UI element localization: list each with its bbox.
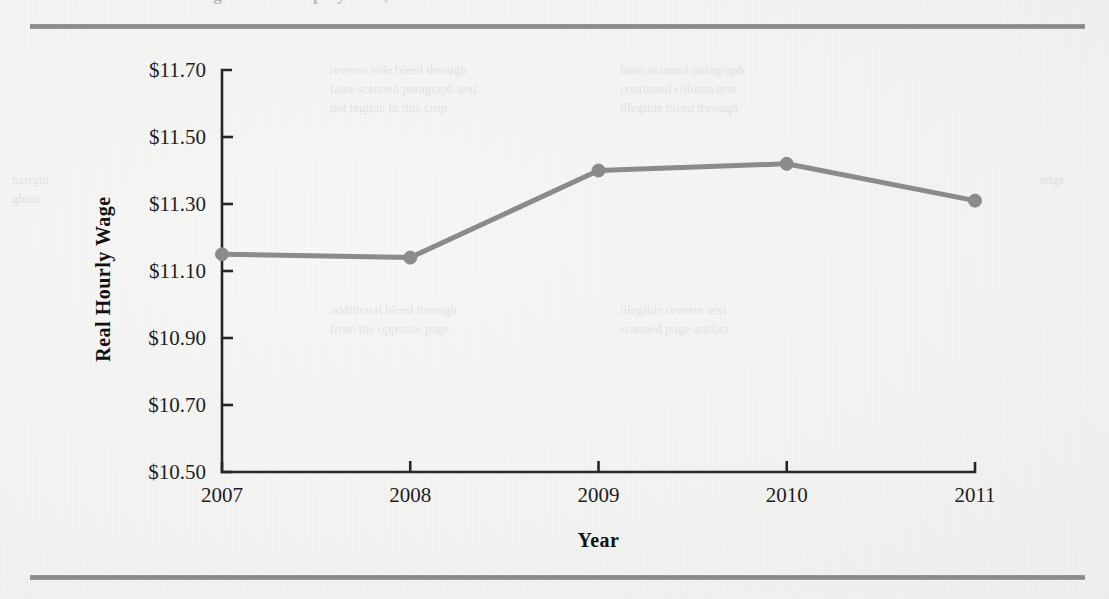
data-point-markers xyxy=(216,157,982,264)
x-tick-label: 2011 xyxy=(954,483,995,507)
x-tick-label: 2009 xyxy=(578,483,620,507)
y-tick-label: $11.50 xyxy=(149,125,206,149)
y-tick-label: $11.70 xyxy=(149,58,206,82)
horizontal-rule-top xyxy=(30,24,1085,29)
y-tick-label: $10.70 xyxy=(148,393,206,417)
page-heading: Minimum Wage and Unemployment, 2007-2011 xyxy=(108,0,470,5)
line-chart-figure: $11.70$11.50$11.30$11.10$10.90$10.70$10.… xyxy=(30,30,1085,573)
y-tick-label: $11.30 xyxy=(149,192,206,216)
y-axis-title: Real Hourly Wage xyxy=(92,196,115,361)
horizontal-rule-bottom xyxy=(30,575,1085,580)
y-tick-label: $11.10 xyxy=(149,259,206,283)
y-tick-label: $10.50 xyxy=(148,460,206,484)
chart-canvas: $11.70$11.50$11.30$11.10$10.90$10.70$10.… xyxy=(30,30,1085,573)
x-tick-label: 2010 xyxy=(766,483,808,507)
x-axis-ticks xyxy=(410,461,787,472)
data-point-marker xyxy=(780,157,793,170)
chart-axes xyxy=(222,70,975,472)
y-axis-ticks xyxy=(222,137,233,405)
cropped-heading-strip: Minimum Wage and Unemployment, 2007-2011 xyxy=(0,0,1109,20)
x-tick-label: 2008 xyxy=(389,483,431,507)
data-point-marker xyxy=(592,164,605,177)
data-series-line xyxy=(222,164,975,258)
y-tick-label: $10.90 xyxy=(148,326,206,350)
data-point-marker xyxy=(969,194,982,207)
x-axis-title: Year xyxy=(578,529,620,551)
x-tick-label: 2007 xyxy=(201,483,243,507)
y-axis-tick-labels: $11.70$11.50$11.30$11.10$10.90$10.70$10.… xyxy=(148,58,206,484)
data-point-marker xyxy=(404,251,417,264)
x-axis-tick-labels: 20072008200920102011 xyxy=(201,483,996,507)
data-point-marker xyxy=(216,248,229,261)
